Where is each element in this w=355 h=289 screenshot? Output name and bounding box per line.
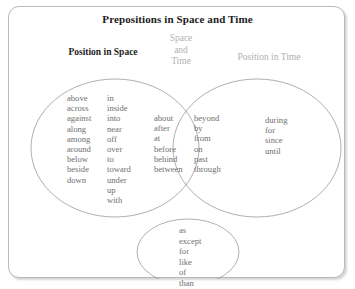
word-item: except [179,236,201,247]
wordlist-neither-column-1: as except for like of than [179,225,201,289]
label-space-and-time-line2: and [161,45,201,57]
word-item: off [107,134,147,144]
word-item: between [154,164,194,174]
word-item: for [265,125,287,135]
word-item: from [194,133,238,143]
word-item: toward [107,164,147,174]
wordlist-time-only-column-1: during for since until [265,115,287,156]
word-item: during [265,115,287,125]
word-item: over [107,144,147,154]
word-item: by [194,123,238,133]
wordlist-space-and-time-column-2: beyond by from on past through [194,113,238,174]
word-item: with [107,195,147,205]
word-item: below [67,154,107,164]
word-item: behind [154,154,194,164]
wordlist-space-and-time-column-1: about after at before behind between [154,113,194,174]
word-item: since [265,135,287,145]
word-item: beside [67,164,107,174]
wordlist-space-and-time: about after at before behind between bey… [154,113,238,174]
word-item: through [194,164,238,174]
word-item: past [194,154,238,164]
word-item: around [67,144,107,154]
word-item: at [154,133,194,143]
word-item: like [179,257,201,268]
label-space-and-time: Space and Time [161,33,201,68]
word-item: above [67,93,107,103]
figure-frame: Prepositions in Space and Time Position … [8,6,345,278]
word-item: before [154,144,194,154]
word-item: along [67,124,107,134]
word-item: as [179,225,201,236]
word-item: among [67,134,107,144]
wordlist-time-only: during for since until [265,115,287,156]
label-position-in-space: Position in Space [43,47,163,58]
wordlist-neither: as except for like of than [179,225,201,289]
label-space-and-time-line3: Time [161,56,201,68]
word-item: inside [107,103,147,113]
word-item: into [107,113,147,123]
word-item: until [265,146,287,156]
word-item: down [67,175,107,185]
word-item: than [179,278,201,289]
word-item: for [179,246,201,257]
word-item: beyond [194,113,238,123]
label-space-and-time-line1: Space [161,33,201,45]
wordlist-space-only-column-2: in inside into near off over to toward u… [107,93,147,205]
word-item: under [107,175,147,185]
word-item: about [154,113,194,123]
word-item: across [67,103,107,113]
word-item: up [107,185,147,195]
word-item: to [107,154,147,164]
word-item: of [179,267,201,278]
word-item: on [194,144,238,154]
wordlist-space-only-column-1: above across against along among around … [67,93,107,205]
word-item: in [107,93,147,103]
word-item: near [107,124,147,134]
label-position-in-time: Position in Time [209,52,329,63]
word-item: against [67,113,107,123]
word-item: after [154,123,194,133]
wordlist-space-only: above across against along among around … [67,93,147,205]
